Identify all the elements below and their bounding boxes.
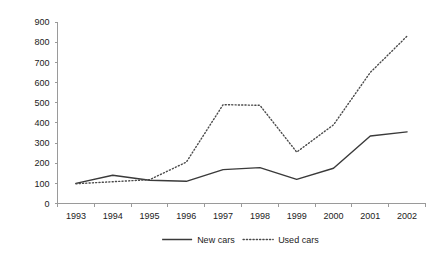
x-tick-label: 1996 <box>176 211 196 221</box>
x-tick-label: 1993 <box>66 211 86 221</box>
y-axis-tick-labels: 0100200300400500600700800900 <box>34 17 49 209</box>
legend-label-used-cars: Used cars <box>278 235 319 245</box>
series-line-new-cars <box>76 132 407 183</box>
series-line-used-cars <box>76 36 407 184</box>
x-tick-label: 2002 <box>397 211 417 221</box>
x-tick-label: 1997 <box>213 211 233 221</box>
legend-label-new-cars: New cars <box>197 235 235 245</box>
y-tick-label: 0 <box>44 199 49 209</box>
y-tick-label: 100 <box>34 179 49 189</box>
y-tick-label: 700 <box>34 58 49 68</box>
y-tick-label: 600 <box>34 78 49 88</box>
y-tick-label: 800 <box>34 37 49 47</box>
y-tick-label: 900 <box>34 17 49 27</box>
x-tick-label: 1994 <box>103 211 123 221</box>
x-tick-label: 2001 <box>360 211 380 221</box>
x-axis-tick-labels: 1993199419951996199719981999200020012002 <box>66 211 417 221</box>
chart-figure: 0100200300400500600700800900 19931994199… <box>0 0 443 258</box>
x-tick-label: 1995 <box>139 211 159 221</box>
y-tick-label: 500 <box>34 98 49 108</box>
y-tick-label: 400 <box>34 118 49 128</box>
chart-legend: New cars Used cars <box>162 235 319 245</box>
y-tick-label: 200 <box>34 158 49 168</box>
y-tick-label: 300 <box>34 138 49 148</box>
line-chart-canvas: 0100200300400500600700800900 19931994199… <box>0 0 443 258</box>
x-tick-label: 1998 <box>250 211 270 221</box>
x-tick-label: 2000 <box>323 211 343 221</box>
x-tick-label: 1999 <box>287 211 307 221</box>
